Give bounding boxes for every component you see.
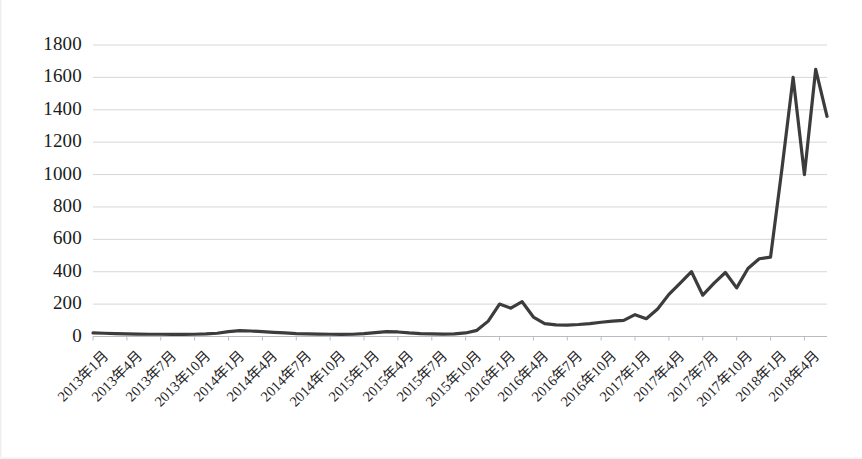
y-axis-tick-label: 600 xyxy=(0,227,82,249)
y-axis-tick-label: 1000 xyxy=(0,163,82,185)
y-axis-tick-label: 0 xyxy=(0,325,82,347)
y-axis-tick-label: 1200 xyxy=(0,130,82,152)
x-axis-tick-marks xyxy=(93,337,804,341)
y-axis-tick-label: 800 xyxy=(0,195,82,217)
data-series-line xyxy=(93,69,827,334)
chart-container: 020040060080010001200140016001800 2013年1… xyxy=(0,0,862,459)
y-axis-tick-label: 1800 xyxy=(0,33,82,55)
y-axis-tick-label: 1600 xyxy=(0,65,82,87)
y-axis-tick-label: 200 xyxy=(0,292,82,314)
y-axis-tick-label: 400 xyxy=(0,260,82,282)
y-axis-tick-label: 1400 xyxy=(0,98,82,120)
gridlines xyxy=(93,45,827,337)
